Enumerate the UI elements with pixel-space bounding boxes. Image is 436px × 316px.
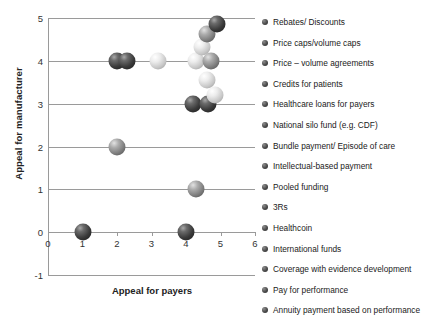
y-tick-label-1: 1: [38, 184, 43, 195]
legend-item[interactable]: Rebates/ Discounts: [262, 16, 345, 28]
legend-item-label: International funds: [273, 244, 341, 254]
legend-item-label: Healthcare loans for payers: [273, 99, 374, 109]
legend-item[interactable]: Credits for patients: [262, 78, 343, 90]
legend-item-label: Healthcoin: [273, 223, 312, 233]
x-axis-title: Appeal for payers: [48, 285, 256, 296]
legend-marker-icon: [262, 287, 268, 293]
legend-item-label: Pooled funding: [273, 182, 328, 192]
legend-item[interactable]: Pay for performance: [262, 284, 348, 296]
x-tick-3: [152, 232, 153, 236]
gridline-y-2: [48, 147, 255, 148]
legend-marker-icon: [262, 225, 268, 231]
chart-panel: Appeal for manufacturer Appeal for payer…: [0, 0, 262, 307]
legend-item[interactable]: Annuity payment based on performance: [262, 304, 420, 316]
y-tick-label-2: 2: [38, 141, 43, 152]
legend-item[interactable]: Pooled funding: [262, 181, 328, 193]
legend-item-label: Bundle payment/ Episode of care: [273, 141, 395, 151]
legend-marker-icon: [262, 246, 268, 252]
data-point: [109, 138, 126, 155]
legend-item-label: Intellectual-based payment: [273, 161, 372, 171]
legend-item-label: Coverage with evidence development: [273, 264, 411, 274]
legend-marker-icon: [262, 60, 268, 66]
x-tick-label-2: 2: [114, 238, 119, 249]
data-point: [209, 16, 226, 33]
legend-marker-icon: [262, 307, 268, 313]
data-point: [119, 52, 136, 69]
legend-item-label: Price caps/volume caps: [273, 38, 361, 48]
legend-marker-icon: [262, 184, 268, 190]
legend-item[interactable]: Bundle payment/ Episode of care: [262, 140, 395, 152]
legend-item-label: Credits for patients: [273, 79, 343, 89]
gridline-y-1: [48, 189, 255, 190]
legend-item[interactable]: Intellectual-based payment: [262, 160, 372, 172]
gridline-y--1: [48, 275, 255, 276]
data-point: [178, 224, 195, 241]
gridline-y-3: [48, 104, 255, 105]
data-point: [150, 52, 167, 69]
legend-marker-icon: [262, 40, 268, 46]
legend-marker-icon: [262, 143, 268, 149]
legend-item[interactable]: Price caps/volume caps: [262, 37, 361, 49]
legend-marker-icon: [262, 266, 268, 272]
legend-item-label: Price – volume agreements: [273, 58, 374, 68]
plot-area: -10123450123456: [48, 18, 255, 275]
legend-marker-icon: [262, 122, 268, 128]
y-axis-title: Appeal for manufacturer: [13, 59, 24, 189]
legend-item[interactable]: Healthcoin: [262, 222, 312, 234]
chart-legend: Rebates/ DiscountsPrice caps/volume caps…: [262, 0, 436, 307]
y-tick-label-4: 4: [38, 55, 43, 66]
data-point: [188, 181, 205, 198]
legend-item-label: Rebates/ Discounts: [273, 17, 345, 27]
x-tick-label-5: 5: [218, 238, 223, 249]
y-tick-label--1: -1: [35, 270, 43, 281]
legend-item-label: National silo fund (e.g. CDF): [273, 120, 378, 130]
x-tick-5: [221, 232, 222, 236]
legend-item[interactable]: Healthcare loans for payers: [262, 98, 374, 110]
x-tick-2: [117, 232, 118, 236]
legend-marker-icon: [262, 81, 268, 87]
legend-item-label: 3Rs: [273, 202, 288, 212]
legend-marker-icon: [262, 19, 268, 25]
legend-item-label: Pay for performance: [273, 285, 348, 295]
y-tick-label-3: 3: [38, 98, 43, 109]
legend-marker-icon: [262, 163, 268, 169]
legend-item[interactable]: Price – volume agreements: [262, 57, 374, 69]
x-tick-label-3: 3: [149, 238, 154, 249]
legend-item[interactable]: International funds: [262, 243, 341, 255]
legend-marker-icon: [262, 204, 268, 210]
y-tick-label-0: 0: [38, 227, 43, 238]
legend-marker-icon: [262, 101, 268, 107]
x-tick-label-6: 6: [252, 238, 257, 249]
legend-item-label: Annuity payment based on performance: [273, 305, 420, 315]
x-tick-label-0: 0: [45, 238, 50, 249]
legend-item[interactable]: 3Rs: [262, 201, 288, 213]
data-point: [184, 95, 201, 112]
data-point: [74, 224, 91, 241]
y-tick-label-5: 5: [38, 13, 43, 24]
legend-item[interactable]: National silo fund (e.g. CDF): [262, 119, 378, 131]
data-point: [207, 87, 224, 104]
legend-item[interactable]: Coverage with evidence development: [262, 263, 411, 275]
x-tick-6: [255, 232, 256, 236]
